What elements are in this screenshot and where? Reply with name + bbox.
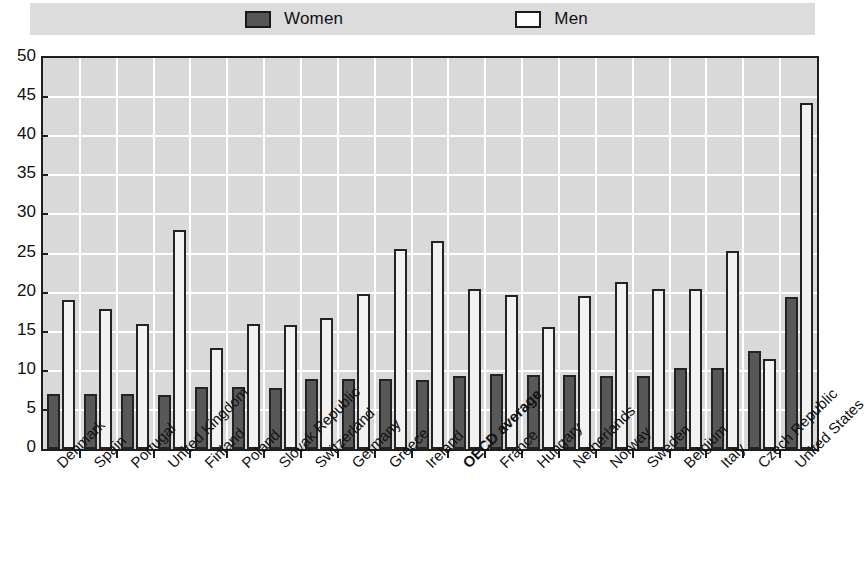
- bar-group: [633, 58, 670, 449]
- bar-women: [47, 394, 60, 449]
- bar-group: [80, 58, 117, 449]
- y-tick-label-5: 5: [2, 398, 36, 418]
- bar-group: [190, 58, 227, 449]
- y-tick-label-0: 0: [2, 437, 36, 457]
- y-tick-label-25: 25: [2, 242, 36, 262]
- y-tick-label-35: 35: [2, 163, 36, 183]
- bar-group: [154, 58, 191, 449]
- bar-group: [706, 58, 743, 449]
- bar-men: [689, 289, 702, 449]
- bar-group: [743, 58, 780, 449]
- y-axis-labels: 05101520253035404550: [0, 56, 36, 451]
- y-tick-label-10: 10: [2, 359, 36, 379]
- bar-group: [559, 58, 596, 449]
- bar-group: [485, 58, 522, 449]
- bar-group: [780, 58, 817, 449]
- bar-group: [375, 58, 412, 449]
- bar-group: [670, 58, 707, 449]
- y-tick-label-45: 45: [2, 85, 36, 105]
- bar-women: [748, 351, 761, 449]
- bar-men: [800, 103, 813, 449]
- x-axis-labels: DenmarkSpainPortugalUnited KingdomFinlan…: [0, 455, 831, 569]
- y-tick-label-20: 20: [2, 281, 36, 301]
- bar-group: [264, 58, 301, 449]
- y-tick-label-50: 50: [2, 46, 36, 66]
- bar-group: [412, 58, 449, 449]
- bar-men: [284, 325, 297, 449]
- bar-group: [596, 58, 633, 449]
- bar-men: [542, 327, 555, 449]
- bar-men: [62, 300, 75, 449]
- y-tick-label-30: 30: [2, 202, 36, 222]
- bar-men: [431, 241, 444, 449]
- bar-men: [136, 324, 149, 449]
- bar-group: [43, 58, 80, 449]
- bar-series-container: [43, 58, 817, 449]
- bar-group: [448, 58, 485, 449]
- bar-men: [247, 324, 260, 449]
- bar-men: [468, 289, 481, 449]
- bar-men: [726, 251, 739, 449]
- bar-men: [652, 289, 665, 449]
- y-tick-label-15: 15: [2, 320, 36, 340]
- bar-group: [117, 58, 154, 449]
- bar-men: [763, 359, 776, 449]
- y-tick-label-40: 40: [2, 124, 36, 144]
- bar-group: [301, 58, 338, 449]
- bar-men: [173, 230, 186, 449]
